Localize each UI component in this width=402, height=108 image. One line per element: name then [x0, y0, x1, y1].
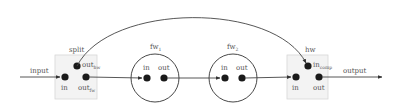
fw1-port-in[interactable]: [143, 74, 150, 81]
split-port-in[interactable]: [61, 73, 68, 80]
component-hw[interactable]: hw incomp in out: [287, 46, 332, 99]
fw1-title: fw1: [150, 43, 162, 52]
hw-port-in-comp[interactable]: [304, 62, 311, 69]
fw2-port-out[interactable]: [238, 74, 245, 81]
hw-port-out[interactable]: [315, 73, 322, 80]
split-port-in-label: in: [61, 84, 68, 92]
output-label: output: [343, 67, 367, 75]
split-port-out-hw-label: outhw: [82, 61, 100, 70]
fw1-port-out[interactable]: [160, 74, 167, 81]
fw2-port-in[interactable]: [221, 74, 228, 81]
hw-port-out-label: out: [313, 84, 325, 92]
component-split[interactable]: split outhw in outfw: [55, 46, 100, 99]
fw2-port-out-label: out: [236, 64, 248, 72]
edge-split-to-hw-comp-arc: [77, 18, 306, 66]
hw-port-in-label: in: [292, 84, 299, 92]
fw2-port-in-label: in: [221, 64, 228, 72]
fw1-port-in-label: in: [143, 64, 150, 72]
input-label: input: [30, 67, 49, 75]
hw-port-in[interactable]: [292, 73, 299, 80]
fw2-title: fw2: [227, 43, 239, 52]
split-title: split: [69, 46, 85, 54]
split-port-out-fw[interactable]: [82, 73, 89, 80]
edge-fw2-to-hw: [245, 77, 291, 78]
component-fw1[interactable]: fw1 in out: [131, 43, 179, 102]
dataflow-diagram: split outhw in outfw fw1 in out fw2 in o…: [0, 0, 402, 108]
fw1-port-out-label: out: [158, 64, 170, 72]
component-fw2[interactable]: fw2 in out: [209, 43, 257, 102]
hw-title: hw: [305, 46, 316, 54]
